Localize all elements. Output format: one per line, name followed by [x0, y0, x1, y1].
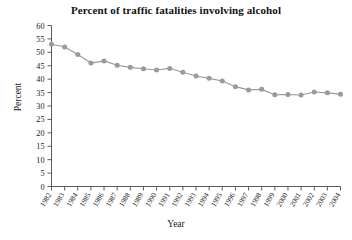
- y-axis: 051015202530354045505560: [36, 22, 51, 192]
- svg-text:20: 20: [36, 129, 44, 138]
- svg-text:1989: 1989: [130, 191, 145, 209]
- chart-container: Percent of traffic fatalities involving …: [0, 0, 352, 240]
- svg-text:1997: 1997: [235, 191, 250, 209]
- svg-text:1994: 1994: [196, 191, 211, 209]
- svg-text:55: 55: [36, 35, 44, 44]
- svg-text:2004: 2004: [327, 191, 342, 209]
- svg-text:30: 30: [36, 102, 44, 111]
- x-axis: 1982198319841985198619871988198919901991…: [38, 187, 342, 209]
- svg-text:2003: 2003: [314, 191, 329, 209]
- svg-text:1996: 1996: [222, 191, 237, 209]
- svg-text:25: 25: [36, 115, 44, 124]
- svg-text:2001: 2001: [288, 191, 303, 209]
- svg-text:1987: 1987: [104, 191, 119, 209]
- svg-text:1995: 1995: [209, 191, 224, 209]
- svg-text:1983: 1983: [51, 191, 66, 209]
- chart-plot-area: 051015202530354045505560 198219831984198…: [0, 0, 352, 240]
- svg-text:1998: 1998: [248, 191, 263, 209]
- svg-text:60: 60: [36, 22, 44, 31]
- svg-text:1993: 1993: [183, 191, 198, 209]
- svg-text:1986: 1986: [91, 191, 106, 209]
- svg-text:0: 0: [40, 183, 44, 192]
- x-axis-label: Year: [0, 219, 352, 229]
- svg-text:1990: 1990: [143, 191, 158, 209]
- svg-text:15: 15: [36, 142, 44, 151]
- y-axis-label: Percent: [13, 67, 23, 127]
- svg-text:1985: 1985: [77, 191, 92, 209]
- svg-text:2000: 2000: [275, 191, 290, 209]
- svg-text:1984: 1984: [64, 191, 79, 209]
- svg-text:1991: 1991: [156, 191, 171, 209]
- svg-text:5: 5: [40, 169, 44, 178]
- svg-text:1982: 1982: [38, 191, 53, 209]
- data-series: [49, 42, 343, 98]
- svg-text:50: 50: [36, 48, 44, 57]
- svg-text:40: 40: [36, 75, 44, 84]
- svg-text:1992: 1992: [169, 191, 184, 209]
- svg-text:10: 10: [36, 156, 44, 165]
- svg-text:35: 35: [36, 89, 44, 98]
- svg-text:1988: 1988: [117, 191, 132, 209]
- svg-text:45: 45: [36, 62, 44, 71]
- svg-text:2002: 2002: [301, 191, 316, 209]
- svg-text:1999: 1999: [261, 191, 276, 209]
